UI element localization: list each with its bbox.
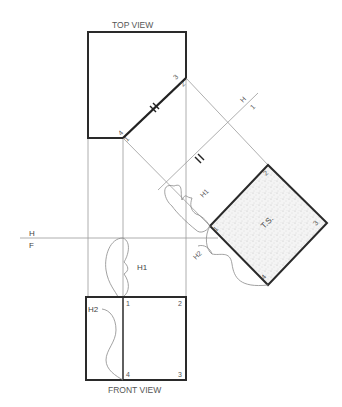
h2-label-aux: H2	[192, 249, 203, 260]
front-point-2: 2	[178, 300, 182, 307]
top-view-title: TOP VIEW	[112, 20, 153, 30]
front-point-4: 4	[126, 371, 130, 378]
h1-label-1: 1	[249, 103, 257, 111]
h1-label-aux: H1	[199, 187, 210, 198]
h2-label-front: H2	[88, 305, 99, 314]
front-view-title: FRONT VIEW	[108, 385, 161, 395]
top-point-4: 4	[117, 129, 125, 137]
hf-label-h: H	[29, 229, 35, 238]
top-view-edge-view	[123, 78, 186, 138]
hf-label-f: F	[29, 241, 34, 250]
auxiliary-view-diagram: H F H 1 TOP VIEW 4 1 3 2 T.S. 1 2 3 4 H1…	[0, 0, 342, 407]
front-point-1: 1	[126, 300, 130, 307]
equal-length-tick-h1	[195, 154, 204, 163]
h1-label-h: H	[239, 95, 248, 104]
h1-brace-front	[106, 238, 129, 297]
h1-label-front: H1	[137, 263, 148, 272]
top-view-outline	[88, 32, 186, 138]
front-view-outline	[86, 297, 186, 380]
top-point-3: 3	[172, 73, 180, 81]
h1-fold-line	[158, 93, 258, 190]
h2-brace-front	[102, 309, 123, 380]
projection-lines	[88, 78, 268, 297]
front-point-3: 3	[178, 371, 182, 378]
